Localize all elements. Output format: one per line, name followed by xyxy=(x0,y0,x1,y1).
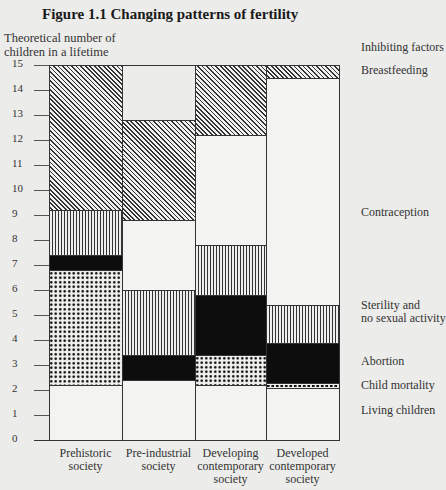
y-tick xyxy=(34,340,49,341)
segment-abortion xyxy=(195,295,266,355)
segment-sterility-and-no-sexual-activity xyxy=(49,210,122,255)
segment-sterility-and-no-sexual-activity xyxy=(266,305,339,343)
legend-child-mortality: Child mortality xyxy=(361,379,435,392)
y-tick-label: 0 xyxy=(12,432,28,444)
segment-child-mortality xyxy=(195,355,266,385)
y-tick xyxy=(34,265,49,266)
legend-contraception: Contraception xyxy=(361,206,429,219)
legend-living-children: Living children xyxy=(361,404,435,417)
y-tick-label: 12 xyxy=(12,132,28,144)
legend-title: Inhibiting factors xyxy=(361,41,444,54)
segment-abortion xyxy=(266,343,339,383)
y-tick-label: 1 xyxy=(12,407,28,419)
segment-living-children xyxy=(49,385,122,440)
y-tick-label: 6 xyxy=(12,282,28,294)
y-tick xyxy=(34,215,49,216)
segment-living-children xyxy=(195,385,266,440)
y-tick-label: 7 xyxy=(12,257,28,269)
segment-contraception xyxy=(195,135,266,245)
y-tick xyxy=(34,315,49,316)
y-tick xyxy=(34,365,49,366)
x-axis-line xyxy=(34,440,339,441)
segment-breastfeeding xyxy=(266,65,339,78)
y-tick-label: 9 xyxy=(12,207,28,219)
bar-2 xyxy=(195,65,266,440)
y-tick xyxy=(34,190,49,191)
y-tick-label: 14 xyxy=(12,82,28,94)
segment-breastfeeding xyxy=(122,120,195,220)
legend-breastfeeding: Breastfeeding xyxy=(361,64,428,77)
bar-0 xyxy=(49,65,122,440)
legend-sterility-line2: no sexual activity xyxy=(361,311,446,325)
segment-breastfeeding xyxy=(49,65,122,210)
legend-sterility: Sterility and no sexual activity xyxy=(361,299,446,325)
segment-child-mortality xyxy=(266,383,339,388)
y-tick-label: 2 xyxy=(12,382,28,394)
segment-contraception xyxy=(266,78,339,306)
y-tick-label: 5 xyxy=(12,307,28,319)
segment-abortion xyxy=(49,255,122,270)
segment-breastfeeding xyxy=(195,65,266,135)
chart-title: Figure 1.1 Changing patterns of fertilit… xyxy=(42,6,298,23)
y-tick xyxy=(34,165,49,166)
bar-1 xyxy=(122,65,195,440)
y-tick-label: 3 xyxy=(12,357,28,369)
y-tick xyxy=(34,90,49,91)
y-axis-label-line1: Theoretical number of xyxy=(4,31,116,45)
y-tick xyxy=(34,415,49,416)
y-tick xyxy=(34,290,49,291)
y-tick-label: 11 xyxy=(12,157,28,169)
y-tick xyxy=(34,115,49,116)
segment-contraception xyxy=(122,220,195,290)
segment-abortion xyxy=(122,355,195,380)
y-axis-label: Theoretical number ofchildren in a lifet… xyxy=(4,31,116,59)
segment-living-children xyxy=(122,380,195,440)
y-tick xyxy=(34,240,49,241)
y-tick xyxy=(34,140,49,141)
y-tick xyxy=(34,65,49,66)
y-tick-label: 4 xyxy=(12,332,28,344)
y-tick-label: 15 xyxy=(12,57,28,69)
segment-sterility-and-no-sexual-activity xyxy=(195,245,266,295)
segment-living-children xyxy=(266,388,339,441)
y-tick-label: 13 xyxy=(12,107,28,119)
segment-child-mortality xyxy=(49,270,122,385)
segment-sterility-and-no-sexual-activity xyxy=(122,290,195,355)
x-category-label: Developedcontemporarysociety xyxy=(260,447,345,486)
y-tick xyxy=(34,390,49,391)
y-tick-label: 10 xyxy=(12,182,28,194)
bar-3 xyxy=(266,65,339,440)
y-tick-label: 8 xyxy=(12,232,28,244)
legend-abortion: Abortion xyxy=(361,355,404,368)
legend-sterility-line1: Sterility and xyxy=(361,298,420,312)
